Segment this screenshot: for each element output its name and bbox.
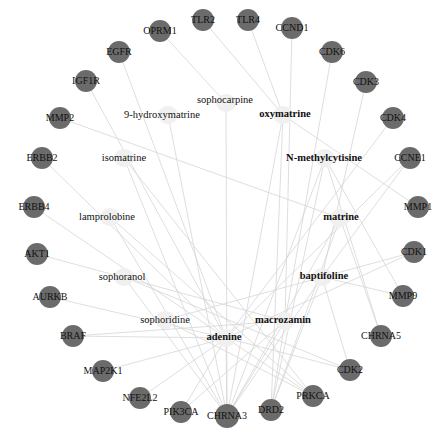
compound-label: lamprolobine — [79, 212, 135, 222]
edge — [325, 158, 381, 336]
edge — [248, 20, 283, 115]
target-label: CCND1 — [276, 23, 309, 33]
target-label: TLR4 — [236, 15, 260, 25]
edge — [271, 115, 283, 410]
edge — [37, 254, 285, 321]
compound-label: isomatrine — [102, 153, 146, 163]
edge — [124, 158, 313, 396]
target-label: CDK1 — [401, 247, 427, 257]
compound-label: sophoranol — [99, 272, 146, 282]
target-label: TLR2 — [191, 15, 215, 25]
target-label: CHRNA3 — [207, 411, 247, 421]
edge — [160, 31, 226, 103]
compound-label: adenine — [206, 332, 241, 342]
target-label: MMP9 — [389, 291, 417, 301]
target-label: PIK3CA — [163, 407, 198, 417]
target-label: IGF1R — [72, 76, 100, 86]
target-label: CDK6 — [319, 47, 345, 57]
target-label: BRAF — [60, 331, 86, 341]
target-label: NFE2L2 — [123, 393, 158, 403]
target-label: ERBB4 — [18, 202, 49, 212]
compound-label: 9-hydroxymatrine — [124, 110, 200, 120]
target-label: MMP1 — [404, 202, 432, 212]
target-label: MMP2 — [46, 113, 74, 123]
target-label: PRKCA — [296, 391, 329, 401]
edge — [73, 336, 226, 338]
edge — [226, 118, 393, 338]
target-label: OPRM1 — [143, 26, 176, 36]
target-label: EGFR — [106, 47, 132, 57]
target-label: CHRNA5 — [361, 331, 401, 341]
target-label: CDK2 — [337, 365, 363, 375]
compound-label: macrozamin — [255, 315, 311, 325]
network-diagram — [0, 0, 445, 444]
target-label: DRD2 — [258, 405, 284, 415]
target-label: AKT1 — [24, 249, 50, 259]
edge — [226, 158, 410, 338]
target-label: ERBB2 — [26, 153, 57, 163]
edge — [110, 217, 313, 396]
target-label: CCNE1 — [394, 153, 426, 163]
compound-label: sophoridine — [140, 315, 190, 325]
edge — [124, 158, 227, 416]
compound-label: oxymatrine — [259, 109, 310, 119]
edge — [60, 118, 340, 218]
edge — [165, 252, 414, 320]
target-label: AURKB — [32, 292, 67, 302]
target-label: CDK4 — [380, 113, 406, 123]
edge — [322, 277, 350, 370]
target-label: MAP2K1 — [84, 366, 123, 376]
edge — [226, 252, 414, 338]
compound-label: baptifoline — [300, 271, 348, 281]
compound-label: matrine — [323, 212, 359, 222]
edge — [168, 115, 227, 416]
target-label: CDK3 — [353, 77, 379, 87]
compound-label: N-methylcytisine — [286, 153, 362, 163]
compound-nodes-layer — [100, 94, 350, 347]
compound-label: sophocarpine — [197, 95, 253, 105]
